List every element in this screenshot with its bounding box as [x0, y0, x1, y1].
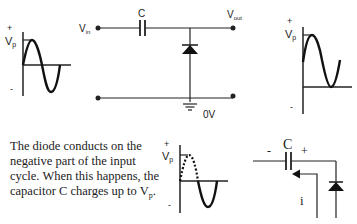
vout-terminal	[231, 26, 236, 31]
ground-label: 0V	[203, 109, 216, 120]
diode-icon	[182, 45, 198, 54]
minus-label: -	[168, 200, 171, 210]
sine-curve	[23, 40, 60, 92]
positive-half-dotted	[180, 155, 198, 181]
bottom-right-terminal	[231, 94, 236, 99]
minus-label: -	[10, 84, 13, 94]
shifted-sine-curve	[303, 35, 340, 87]
minus-label: -	[290, 102, 293, 112]
current-label: i	[300, 193, 304, 208]
vin-label: Vin	[79, 23, 90, 35]
capacitor-label: C	[138, 8, 145, 19]
input-waveform: + Vp -	[5, 23, 71, 96]
clamper-circuit: Vin C Vout 0V	[79, 8, 242, 120]
vp-label: Vp	[162, 150, 173, 164]
output-waveform: + Vp -	[285, 16, 352, 114]
negative-cycle-waveform: + Vp -	[162, 139, 228, 213]
negative-half-solid	[198, 181, 217, 207]
charging-detail: C - + i	[253, 137, 344, 218]
current-arrow-icon	[292, 170, 317, 219]
ground-icon	[183, 104, 197, 110]
vout-label: Vout	[227, 9, 242, 21]
plus-label: +	[164, 139, 169, 149]
vp-label: Vp	[5, 35, 16, 49]
minus-label: -	[267, 144, 271, 158]
plus-label: +	[7, 23, 12, 33]
capacitor-label: C	[283, 137, 292, 152]
diode-icon	[328, 182, 344, 191]
vp-label: Vp	[285, 28, 296, 42]
description-text: The diode conducts on the negative part …	[10, 139, 160, 203]
plus-label: +	[287, 16, 292, 26]
plus-label: +	[301, 144, 308, 158]
